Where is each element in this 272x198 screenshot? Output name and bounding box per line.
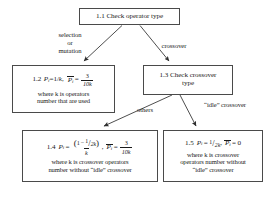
edge-label-selection-mutation: selection or mutation (41, 31, 99, 56)
node-check-crossover-type[interactable]: 1.3 Check crossover type (143, 65, 233, 95)
formula-1-4: 1.4 Pi = ( 1 − 1 / 2k ) k (47, 139, 134, 156)
fraction-denominator: k (84, 148, 90, 156)
node-others-crossover-probability[interactable]: 1.4 Pi = ( 1 − 1 / 2k ) k (22, 130, 158, 182)
fraction-3-over-10k: 3 10k (81, 73, 93, 87)
node-check-operator-type[interactable]: 1.1 Check operator type (79, 8, 180, 25)
pbar-value: 0 (238, 140, 242, 148)
edge-label-others: others (128, 106, 162, 114)
fraction-numerator: ( 1 − 1 / 2k ) (72, 139, 100, 148)
edge-label-idle-crossover: “idle” crossover (182, 101, 268, 109)
formula-1-5-id: 1.5 (185, 140, 194, 148)
edge-line-idle-crossover (180, 95, 196, 126)
fraction-numerator: 3 (123, 140, 129, 147)
node-1-5-note: where k is crossover operators number wi… (180, 151, 246, 173)
node-1-4-note: where k is crossover operators number wi… (48, 158, 131, 173)
inner-fraction-1-over-2k: 1 / 2k (85, 139, 96, 148)
node-idle-crossover-probability[interactable]: 1.5 Pi = 1 / 2k , Pi = 0 where k is cros… (163, 130, 263, 182)
fraction-3-over-10k: 3 10k (120, 140, 132, 154)
formula-1-4-id: 1.4 (47, 144, 56, 152)
pbar-symbol: Pi (106, 143, 112, 151)
fraction-denominator: 10k (120, 147, 132, 155)
fraction-complex: ( 1 − 1 / 2k ) k (72, 139, 100, 156)
flowchart-canvas: 1.1 Check operator type selection or mut… (0, 0, 272, 198)
node-selection-mutation-probability[interactable]: 1.2 Pi =1/k, Pi = 3 10k where k is opera… (12, 65, 115, 113)
formula-1-2-id: 1.2 (33, 76, 42, 84)
pbar-symbol: Pi (68, 76, 74, 84)
formula-1-2: 1.2 Pi =1/k, Pi = 3 10k (33, 73, 95, 87)
formula-1-5: 1.5 Pi = 1 / 2k , Pi = 0 (185, 139, 241, 149)
node-1-3-label: 1.3 Check crossover type (160, 72, 217, 88)
fraction-1-over-2k: 1 / 2k (209, 139, 220, 149)
fraction-numerator: 3 (84, 73, 90, 80)
node-1-2-note: where k is operators number that are use… (37, 90, 90, 105)
node-1-1-label: 1.1 Check operator type (96, 13, 163, 21)
edge-label-crossover: crossover (150, 42, 198, 50)
pbar-symbol: Pi (225, 139, 231, 147)
fraction-denominator: 10k (81, 80, 93, 88)
